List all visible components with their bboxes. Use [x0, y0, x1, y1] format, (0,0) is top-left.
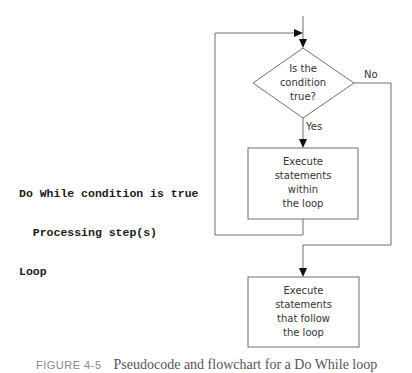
caption-text: Pseudocode and flowchart for a Do While …	[114, 357, 378, 372]
loop-body-line: Execute	[248, 155, 358, 169]
loop-body-line: within	[248, 183, 358, 197]
decision-line: condition	[263, 76, 343, 90]
after-loop-label: Execute statements that follow the loop	[248, 284, 359, 340]
loop-body-label: Execute statements within the loop	[248, 155, 358, 211]
after-loop-line: the loop	[248, 326, 359, 340]
decision-label: Is the condition true?	[263, 62, 343, 104]
decision-line: true?	[263, 90, 343, 104]
figure-caption: FIGURE 4-5Pseudocode and flowchart for a…	[36, 357, 377, 373]
after-loop-line: Execute	[248, 284, 359, 298]
arrow-down-icon	[299, 268, 307, 277]
arrow-down-icon	[299, 39, 307, 48]
arrow-right-icon	[294, 29, 303, 37]
decision-line: Is the	[263, 62, 343, 76]
figure-number: FIGURE 4-5	[36, 359, 102, 371]
arrow-down-icon	[299, 139, 307, 148]
no-label: No	[364, 69, 378, 81]
yes-label: Yes	[306, 121, 322, 133]
after-loop-line: that follow	[248, 312, 359, 326]
loop-body-line: the loop	[248, 197, 358, 211]
after-loop-line: statements	[248, 298, 359, 312]
loop-body-line: statements	[248, 169, 358, 183]
